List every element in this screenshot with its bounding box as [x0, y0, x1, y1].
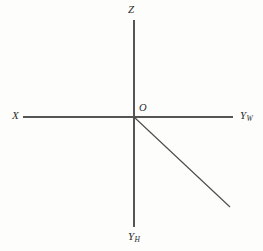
axis-label-x: X — [12, 110, 19, 121]
axes-drawing — [0, 0, 263, 251]
axis-label-z: Z — [128, 4, 134, 15]
origin-label: O — [139, 103, 147, 114]
axis-line-oblique — [134, 117, 230, 207]
axis-label-y-w-subscript: W — [246, 114, 253, 123]
axis-label-y-w: YW — [240, 110, 253, 123]
axis-label-y-h: YH — [128, 231, 140, 244]
coordinate-axis-figure: Z X YW YH O — [0, 0, 263, 251]
axis-label-y-h-subscript: H — [134, 235, 140, 244]
